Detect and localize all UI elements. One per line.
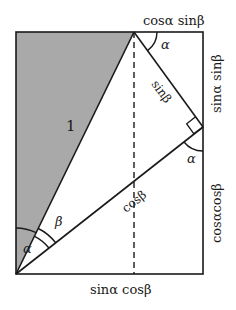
right-angle-marker — [187, 117, 203, 134]
angle-arc-beta-inner — [35, 236, 49, 248]
label-beta: β — [54, 214, 63, 229]
label-inner-cos: cosβ — [119, 188, 149, 216]
label-alpha-right: α — [187, 151, 196, 166]
label-top-edge: cosα sinβ — [143, 13, 204, 28]
label-alpha-origin: α — [23, 241, 32, 256]
angle-arc-alpha-right — [184, 142, 203, 151]
label-right-edge-bottom: cosαcosβ — [209, 183, 224, 243]
label-right-edge-top: sinα sinβ — [209, 54, 224, 113]
label-hypotenuse: 1 — [66, 117, 76, 135]
angle-arc-alpha-top — [148, 32, 158, 51]
diagram-canvas: 1 cosα sinβ sinα sinβ cosαcosβ sinα cosβ… — [0, 0, 236, 310]
label-bottom-edge: sinα cosβ — [90, 282, 151, 297]
label-alpha-top: α — [161, 37, 170, 52]
